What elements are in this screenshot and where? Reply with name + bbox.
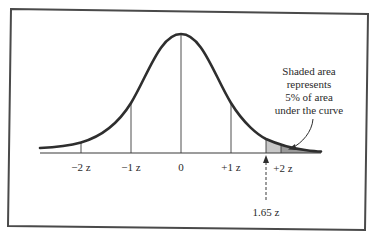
tick-label-zero: 0 bbox=[178, 161, 184, 173]
tick-label-minus1z: −1 z bbox=[121, 161, 140, 173]
annotation-line-4: under the curve bbox=[275, 104, 344, 116]
arrow-up-icon bbox=[263, 155, 269, 163]
tick-label-plus1z: +1 z bbox=[221, 161, 240, 173]
normal-distribution-diagram: −2 z −1 z 0 +1 z +2 z 1.65 z Shaded area… bbox=[0, 0, 374, 237]
tick-label-plus2z: +2 z bbox=[273, 162, 292, 174]
annotation-line-2: represents bbox=[287, 78, 332, 90]
annotation-line-3: 5% of area bbox=[285, 91, 333, 103]
tick-label-minus2z: −2 z bbox=[71, 161, 90, 173]
normal-curve bbox=[40, 34, 321, 152]
critical-value-label: 1.65 z bbox=[253, 206, 280, 218]
diagram-frame bbox=[8, 9, 368, 230]
annotation-line-1: Shaded area bbox=[282, 65, 336, 77]
annotation-arrow bbox=[292, 119, 313, 148]
